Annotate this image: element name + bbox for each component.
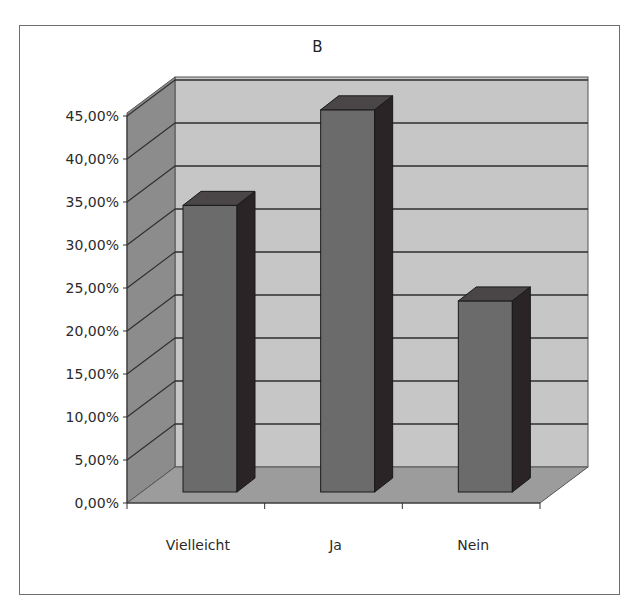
y-tick-label: 45,00% bbox=[66, 108, 119, 124]
y-tick-label: 5,00% bbox=[75, 452, 119, 468]
chart-plot-area: 0,00%5,00%10,00%15,00%20,00%25,00%30,00%… bbox=[0, 0, 635, 611]
y-tick-label: 25,00% bbox=[66, 280, 119, 296]
bar-front bbox=[321, 110, 375, 492]
y-tick-label: 30,00% bbox=[66, 237, 119, 253]
bar-front bbox=[458, 301, 512, 492]
bar-front bbox=[183, 205, 237, 492]
y-tick-label: 0,00% bbox=[75, 495, 119, 511]
bar-side bbox=[237, 191, 255, 492]
x-category-label: Vielleicht bbox=[166, 537, 231, 553]
bar-side bbox=[375, 96, 393, 492]
y-tick-label: 15,00% bbox=[66, 366, 119, 382]
y-tick-label: 10,00% bbox=[66, 409, 119, 425]
y-tick-label: 35,00% bbox=[66, 194, 119, 210]
y-tick-label: 40,00% bbox=[66, 151, 119, 167]
y-tick-label: 20,00% bbox=[66, 323, 119, 339]
bar-side bbox=[512, 287, 530, 492]
x-category-label: Ja bbox=[328, 537, 342, 553]
x-category-label: Nein bbox=[457, 537, 489, 553]
